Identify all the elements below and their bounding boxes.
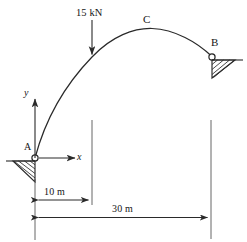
pin-circle-b xyxy=(209,54,215,60)
load-label: 15 kN xyxy=(76,8,102,19)
dimension-label-10m: 10 m xyxy=(44,187,65,197)
crown-label-c: C xyxy=(143,14,150,25)
support-b-pin xyxy=(209,54,243,78)
support-a-hatching xyxy=(15,161,36,178)
support-a-pin xyxy=(13,155,38,182)
dimension-label-30m: 30 m xyxy=(112,204,133,214)
axis-label-y: y xyxy=(24,88,28,98)
support-label-a: A xyxy=(24,142,31,152)
support-label-b: B xyxy=(211,37,218,48)
arch-diagram: 15 kN C B A y x 10 m 30 m xyxy=(0,0,247,242)
axis-label-x: x xyxy=(77,152,81,162)
arch-rib xyxy=(35,28,212,158)
